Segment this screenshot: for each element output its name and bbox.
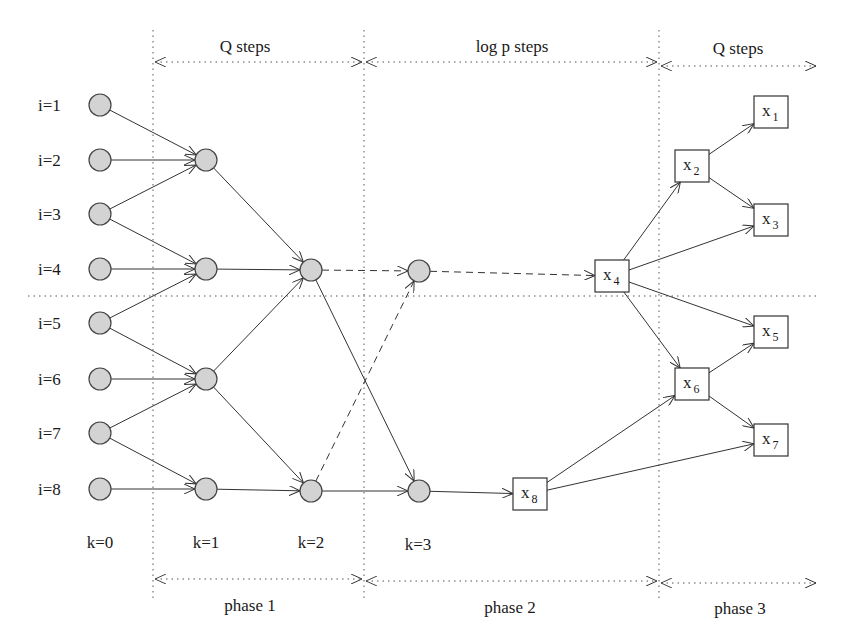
steps-span-label: Q steps xyxy=(713,39,764,58)
edge-c1_6-to-c2_8 xyxy=(214,387,304,483)
node-circle-c1_8 xyxy=(195,478,217,500)
node-circle-c3_4 xyxy=(408,260,430,282)
node-circle-c0_6 xyxy=(89,368,111,390)
phase-span-label: phase 3 xyxy=(714,599,765,618)
node-box-x8 xyxy=(513,478,547,510)
edge-x6-to-x7 xyxy=(709,396,754,428)
node-circle-c0_3 xyxy=(89,203,111,225)
edge-c0_1-to-c1_2 xyxy=(110,110,196,155)
edge-c1_4-to-c2_4 xyxy=(217,269,300,270)
edge-c0_3-to-c1_4 xyxy=(110,219,196,264)
column-label: k=0 xyxy=(87,533,114,552)
steps-span-label: log p steps xyxy=(476,37,549,56)
node-box-x7 xyxy=(754,424,788,456)
column-label: k=3 xyxy=(405,535,432,554)
labels: Q stepslog p stepsQ stepsphase 1phase 2p… xyxy=(38,37,779,618)
node-box-x5 xyxy=(754,316,788,348)
row-label: i=2 xyxy=(38,151,61,170)
edge-x4-to-x6 xyxy=(624,292,680,368)
node-circle-c2_4 xyxy=(300,259,322,281)
node-circle-c1_2 xyxy=(195,149,217,171)
node-circle-c1_6 xyxy=(195,368,217,390)
edge-c0_5-to-c1_6 xyxy=(110,328,197,374)
column-label: k=1 xyxy=(193,533,220,552)
row-label: i=8 xyxy=(38,480,61,499)
guide-lines xyxy=(28,30,820,598)
row-label: i=1 xyxy=(38,96,61,115)
edge-c1_8-to-c2_8 xyxy=(217,489,300,491)
edge-c1_2-to-c2_4 xyxy=(214,168,304,262)
phase-span-label: phase 2 xyxy=(484,598,535,617)
node-box-x6 xyxy=(675,368,709,400)
edge-c0_3-to-c1_2 xyxy=(110,165,196,209)
node-box-x3 xyxy=(754,204,788,236)
edge-x6-to-x5 xyxy=(709,343,754,373)
edge-x8-to-x6 xyxy=(547,396,675,483)
edge-c1_6-to-c2_4 xyxy=(214,278,304,371)
node-circle-c0_2 xyxy=(89,149,111,171)
edge-x4-to-x5 xyxy=(629,282,754,326)
node-circle-c1_4 xyxy=(195,258,217,280)
node-circle-c0_7 xyxy=(89,422,111,444)
edge-x2-to-x3 xyxy=(709,178,754,209)
edge-c3_4-to-x4 xyxy=(430,271,595,275)
row-label: i=6 xyxy=(38,370,61,389)
edge-c2_4-to-c3_4 xyxy=(322,270,408,271)
parallel-reduction-diagram: Q stepslog p stepsQ stepsphase 1phase 2p… xyxy=(0,0,848,639)
edge-c3_8-to-x8 xyxy=(430,491,513,493)
row-label: i=7 xyxy=(38,424,61,443)
node-box-x4 xyxy=(595,260,629,292)
phase-span-label: phase 1 xyxy=(224,596,275,615)
edge-x4-to-x3 xyxy=(629,226,754,270)
node-circle-c0_5 xyxy=(89,312,111,334)
node-circle-c2_8 xyxy=(300,480,322,502)
node-circle-c0_8 xyxy=(89,478,111,500)
phase-spans xyxy=(155,62,816,583)
steps-span-label: Q steps xyxy=(220,37,271,56)
row-label: i=3 xyxy=(38,205,61,224)
node-box-x2 xyxy=(675,150,709,182)
row-label: i=5 xyxy=(38,314,61,333)
edge-c0_7-to-c1_8 xyxy=(110,438,197,484)
node-circle-c0_4 xyxy=(89,258,111,280)
edge-x2-to-x1 xyxy=(709,124,754,155)
edge-x8-to-x7 xyxy=(547,444,754,490)
row-label: i=4 xyxy=(38,260,61,279)
node-box-x1 xyxy=(754,96,788,128)
column-label: k=2 xyxy=(298,533,325,552)
edge-c2_4-to-c3_8 xyxy=(316,280,414,481)
node-circle-c3_8 xyxy=(408,480,430,502)
node-circle-c0_1 xyxy=(89,94,111,116)
edge-x4-to-x2 xyxy=(624,182,681,260)
